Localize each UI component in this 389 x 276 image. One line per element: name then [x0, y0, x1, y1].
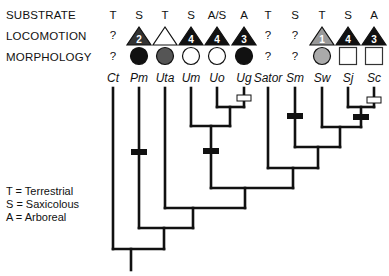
legend-terrestrial: T = Terrestrial [6, 185, 79, 198]
svg-text:4: 4 [188, 34, 194, 45]
svg-text:4: 4 [214, 34, 220, 45]
morphology-circle-icon [314, 48, 331, 65]
phylogenetic-tree: 2443143 [0, 0, 389, 276]
morphology-circle-icon [236, 48, 253, 65]
legend: T = Terrestrial S = Saxicolous A = Arbor… [6, 185, 79, 224]
character-change-filled-bar [287, 113, 303, 119]
legend-arboreal: A = Arboreal [6, 211, 79, 224]
svg-text:1: 1 [319, 34, 325, 45]
svg-text:3: 3 [241, 34, 247, 45]
locomotion-triangle-icon: 3 [232, 27, 256, 45]
character-change-filled-bar [203, 148, 219, 154]
morphology-circle-icon [209, 48, 226, 65]
character-change-open-bar [367, 97, 381, 103]
morphology-circle-icon [183, 48, 200, 65]
morphology-square-icon [340, 48, 357, 65]
svg-text:3: 3 [371, 34, 377, 45]
locomotion-triangle-icon: 4 [336, 27, 360, 45]
morphology-circle-icon [131, 48, 148, 65]
locomotion-triangle-icon: 3 [362, 27, 386, 45]
locomotion-triangle-icon [153, 27, 177, 45]
svg-text:2: 2 [136, 34, 142, 45]
character-change-filled-bar [131, 149, 147, 155]
morphology-square-icon [366, 48, 383, 65]
locomotion-triangle-icon: 4 [205, 27, 229, 45]
svg-text:4: 4 [345, 34, 351, 45]
character-change-filled-bar [353, 114, 369, 120]
morphology-circle-icon [157, 48, 174, 65]
locomotion-triangle-icon: 2 [127, 27, 151, 45]
locomotion-triangle-icon: 1 [310, 27, 334, 45]
character-change-open-bar [237, 95, 251, 101]
locomotion-triangle-icon: 4 [179, 27, 203, 45]
legend-saxicolous: S = Saxicolous [6, 198, 79, 211]
